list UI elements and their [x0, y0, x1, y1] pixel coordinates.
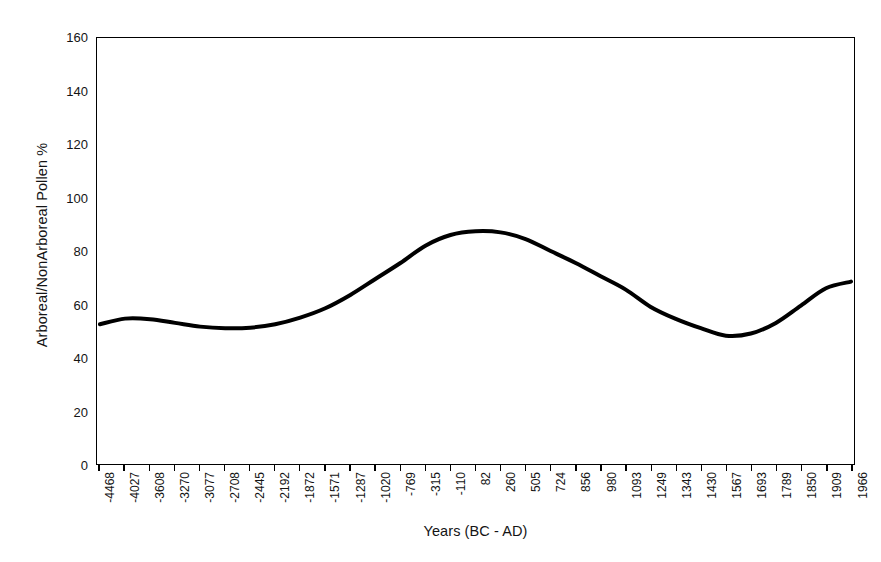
- x-tick-label: -1571: [329, 472, 341, 503]
- x-tick-mark: [625, 465, 626, 471]
- x-tick-mark: [550, 465, 551, 471]
- x-tick-mark: [525, 465, 526, 471]
- x-tick-mark: [776, 465, 777, 471]
- x-tick-mark: [450, 465, 451, 471]
- x-tick-mark: [400, 465, 401, 471]
- x-tick-mark: [324, 465, 325, 471]
- y-tick-label: 160: [52, 30, 88, 45]
- x-tick-mark: [98, 465, 99, 471]
- x-tick-mark: [224, 465, 225, 471]
- x-tick-label: -2445: [254, 472, 266, 503]
- x-tick-label: -4468: [104, 472, 116, 503]
- x-tick-mark: [475, 465, 476, 471]
- x-tick-label: 1567: [731, 472, 743, 499]
- pollen-percentage-line-chart: Arboreal/NonArboreal Pollen % 0204060801…: [0, 0, 881, 562]
- x-tick-label: -3270: [179, 472, 191, 503]
- x-tick-label: -110: [455, 472, 467, 495]
- plot-area: [96, 37, 855, 465]
- x-tick-mark: [425, 465, 426, 471]
- x-axis-tick-labels: -4468-4027-3608-3270-3077-2708-2445-2192…: [96, 472, 855, 520]
- x-tick-mark: [851, 465, 852, 471]
- x-tick-mark: [801, 465, 802, 471]
- x-tick-label: -4027: [129, 472, 141, 503]
- x-tick-label: 1343: [681, 472, 693, 499]
- x-tick-label: 82: [480, 472, 492, 485]
- x-tick-label: -3077: [204, 472, 216, 503]
- x-tick-mark: [751, 465, 752, 471]
- x-tick-label: 1693: [756, 472, 768, 499]
- y-tick-label: 60: [52, 297, 88, 312]
- x-tick-label: 1430: [706, 472, 718, 499]
- y-tick-label: 40: [52, 351, 88, 366]
- x-tick-label: 505: [530, 472, 542, 492]
- y-tick-label: 0: [52, 458, 88, 473]
- x-tick-mark: [149, 465, 150, 471]
- y-tick-label: 120: [52, 137, 88, 152]
- x-tick-label: 1850: [806, 472, 818, 499]
- x-tick-label: -2708: [229, 472, 241, 503]
- x-tick-mark: [676, 465, 677, 471]
- x-tick-mark: [600, 465, 601, 471]
- x-tick-label: -769: [405, 472, 417, 496]
- x-tick-mark: [199, 465, 200, 471]
- x-tick-mark: [174, 465, 175, 471]
- x-tick-label: 260: [505, 472, 517, 492]
- x-tick-label: 1909: [831, 472, 843, 499]
- x-tick-label: 980: [606, 472, 618, 492]
- y-tick-label: 100: [52, 190, 88, 205]
- y-tick-label: 140: [52, 83, 88, 98]
- x-tick-label: 724: [555, 472, 567, 492]
- y-axis-tick-labels: 020406080100120140160: [52, 0, 88, 562]
- x-tick-label: 1789: [781, 472, 793, 499]
- x-tick-label: -3608: [154, 472, 166, 503]
- x-tick-mark: [299, 465, 300, 471]
- x-tick-label: 856: [580, 472, 592, 492]
- x-tick-mark: [575, 465, 576, 471]
- x-tick-mark: [826, 465, 827, 471]
- x-tick-mark: [500, 465, 501, 471]
- pollen-curve-svg: [97, 38, 854, 464]
- x-tick-label: -1020: [380, 472, 392, 503]
- y-tick-label: 80: [52, 244, 88, 259]
- x-tick-mark: [726, 465, 727, 471]
- x-tick-label: -315: [430, 472, 442, 496]
- x-tick-mark: [701, 465, 702, 471]
- y-tick-label: 20: [52, 404, 88, 419]
- x-tick-mark: [651, 465, 652, 471]
- x-tick-mark: [374, 465, 375, 471]
- x-tick-mark: [349, 465, 350, 471]
- pollen-data-line: [100, 231, 851, 336]
- x-tick-label: 1249: [656, 472, 668, 499]
- x-tick-mark: [274, 465, 275, 471]
- x-tick-mark: [249, 465, 250, 471]
- x-tick-label: 1966: [857, 472, 869, 499]
- x-tick-label: -2192: [279, 472, 291, 503]
- x-tick-label: 1093: [631, 472, 643, 499]
- x-tick-mark: [123, 465, 124, 471]
- x-axis-title: Years (BC - AD): [96, 523, 855, 539]
- x-tick-label: -1872: [304, 472, 316, 503]
- x-tick-label: -1287: [355, 472, 367, 503]
